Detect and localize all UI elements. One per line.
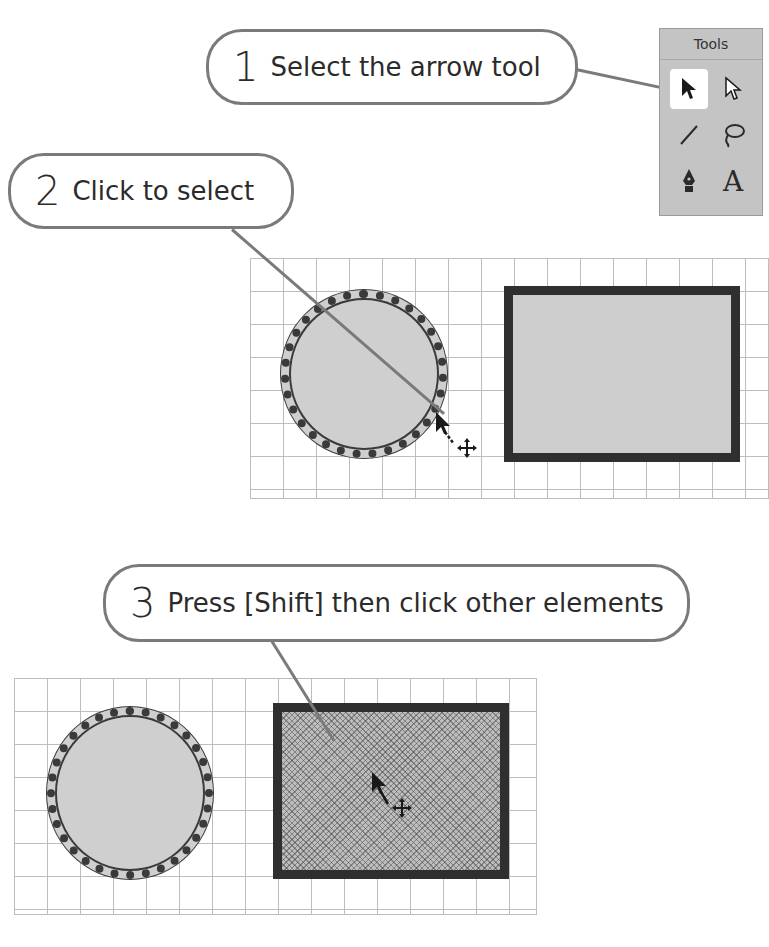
step-1-number: 1 bbox=[233, 47, 258, 87]
stage-2-rectangle[interactable] bbox=[504, 286, 740, 462]
subselect-tool-button[interactable] bbox=[714, 69, 752, 109]
step-3-callout: 3 Press [Shift] then click other element… bbox=[103, 564, 690, 642]
subselect-arrow-icon bbox=[723, 76, 743, 102]
step-2-number: 2 bbox=[35, 171, 60, 211]
tools-panel: Tools A bbox=[659, 28, 763, 216]
stage-3-move-cursor-icon bbox=[390, 796, 414, 820]
arrow-tool-button[interactable] bbox=[670, 69, 708, 109]
step-1-leader-line bbox=[576, 68, 667, 90]
lasso-tool-button[interactable] bbox=[714, 115, 752, 155]
text-icon: A bbox=[723, 165, 743, 198]
pen-icon bbox=[679, 167, 699, 195]
line-tool-button[interactable] bbox=[670, 115, 708, 155]
stage-2-circle-selected[interactable] bbox=[281, 290, 447, 458]
step-2-callout: 2 Click to select bbox=[8, 153, 294, 229]
step-1-callout: 1 Select the arrow tool bbox=[206, 29, 578, 105]
arrow-icon bbox=[679, 76, 699, 102]
pen-tool-button[interactable] bbox=[670, 161, 708, 201]
stage-2-move-cursor-icon bbox=[455, 436, 479, 460]
lasso-icon bbox=[720, 122, 746, 148]
stage-3-circle-selected[interactable] bbox=[47, 707, 213, 879]
tools-panel-title: Tools bbox=[660, 29, 762, 60]
text-tool-button[interactable]: A bbox=[714, 161, 752, 201]
step-1-text: Select the arrow tool bbox=[270, 54, 540, 80]
line-icon bbox=[677, 123, 701, 147]
step-3-text: Press [Shift] then click other elements bbox=[167, 590, 663, 616]
step-2-text: Click to select bbox=[72, 178, 254, 204]
step-3-number: 3 bbox=[130, 583, 155, 623]
